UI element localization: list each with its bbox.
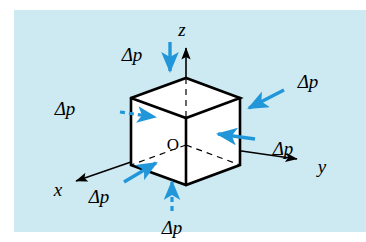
pressure-label-left: Δp	[54, 98, 76, 119]
axis-label-y: y	[316, 156, 327, 177]
pressure-cube-diagram: O x y z Δp Δp Δp Δp	[0, 0, 366, 242]
pressure-label-right: Δp	[272, 138, 294, 159]
pressure-label-bottom: Δp	[161, 217, 183, 238]
figure-container: Pressure difference acting on a cubic fl…	[0, 0, 366, 242]
pressure-label-top: Δp	[121, 44, 143, 65]
pressure-label-upper-right: Δp	[297, 71, 319, 92]
axis-label-x: x	[53, 179, 63, 200]
origin-label: O	[167, 135, 179, 154]
pressure-label-lower-left: Δp	[88, 186, 110, 207]
axis-label-z: z	[177, 19, 186, 40]
